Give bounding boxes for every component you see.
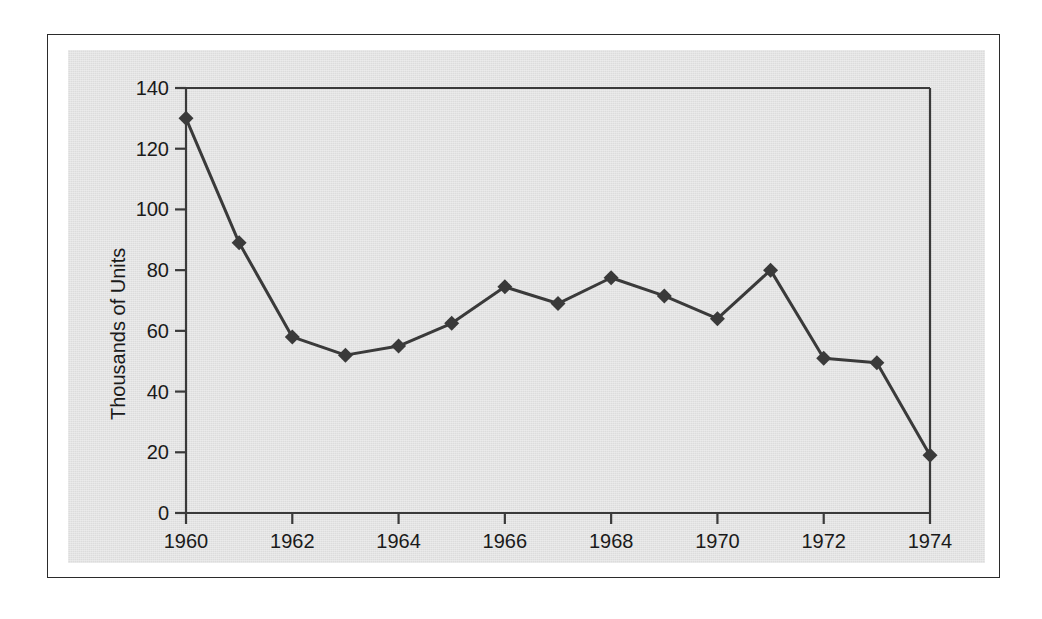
y-tick-label: 20 xyxy=(117,442,169,462)
tick-marks xyxy=(175,88,930,524)
x-tick-label: 1962 xyxy=(257,531,327,551)
y-tick-label: 120 xyxy=(117,139,169,159)
data-point-markers xyxy=(179,111,938,463)
y-axis-title: Thousands of Units xyxy=(107,248,130,420)
x-tick-label: 1966 xyxy=(470,531,540,551)
y-tick-label: 0 xyxy=(117,503,169,523)
x-tick-label: 1964 xyxy=(364,531,434,551)
x-tick-label: 1974 xyxy=(895,531,965,551)
x-tick-label: 1968 xyxy=(576,531,646,551)
x-tick-label: 1972 xyxy=(789,531,859,551)
figure-root: 020406080100120140 196019621964196619681… xyxy=(0,0,1042,619)
data-line-series-units xyxy=(186,118,930,455)
x-tick-label: 1960 xyxy=(151,531,221,551)
x-tick-label: 1970 xyxy=(682,531,752,551)
y-tick-label: 140 xyxy=(117,78,169,98)
y-tick-label: 100 xyxy=(117,199,169,219)
